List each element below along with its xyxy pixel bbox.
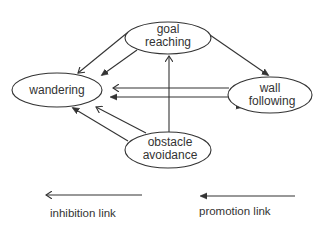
legend-promotion-label: promotion link <box>199 205 271 217</box>
legend-inhibition-label: inhibition link <box>50 207 116 219</box>
node-goal-reaching: goal reaching <box>125 22 211 54</box>
node-wall-following: wall following <box>228 77 312 113</box>
edge-obstacle-to-wandering-promotion <box>73 108 128 141</box>
edge-goal-to-wall <box>210 35 268 75</box>
legend: inhibition link promotion link <box>46 195 295 219</box>
node-label: following <box>249 94 296 108</box>
node-label: wall <box>259 81 281 95</box>
edge-goal-to-wandering-promotion <box>102 50 137 75</box>
node-label: goal <box>157 22 180 36</box>
edge-obstacle-to-wandering-inhibition <box>96 107 146 133</box>
edge-goal-to-wandering-inhibition <box>78 33 127 73</box>
node-label: avoidance <box>143 148 198 162</box>
node-label: reaching <box>145 35 191 49</box>
node-obstacle-avoidance: obstacle avoidance <box>125 132 211 168</box>
behavior-diagram: goal reaching wandering wall following o… <box>0 0 325 230</box>
node-label: obstacle <box>148 135 193 149</box>
node-label: wandering <box>28 83 84 97</box>
node-wandering: wandering <box>12 73 102 107</box>
